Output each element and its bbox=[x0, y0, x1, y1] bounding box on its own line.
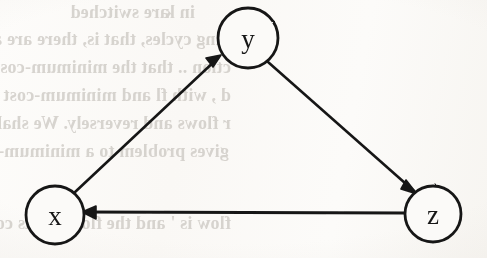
node-y-label: y bbox=[241, 24, 255, 54]
edge-x-to-y-arrowhead bbox=[206, 55, 221, 67]
edge-z-to-x bbox=[82, 206, 405, 219]
directed-graph: x y z bbox=[0, 0, 487, 258]
figure-canvas: in kare switchedring cycles, that is, th… bbox=[0, 0, 487, 258]
edge-z-to-x-line bbox=[85, 212, 405, 213]
node-z-label: z bbox=[427, 200, 439, 230]
edge-y-to-z-line bbox=[268, 62, 414, 191]
edge-x-to-y bbox=[74, 55, 221, 193]
edge-y-to-z bbox=[268, 62, 417, 194]
edge-x-to-y-line bbox=[74, 58, 218, 193]
node-y[interactable]: y bbox=[218, 8, 278, 68]
node-x-label: x bbox=[48, 201, 62, 231]
node-x[interactable]: x bbox=[26, 186, 84, 244]
node-z[interactable]: z bbox=[405, 186, 461, 242]
